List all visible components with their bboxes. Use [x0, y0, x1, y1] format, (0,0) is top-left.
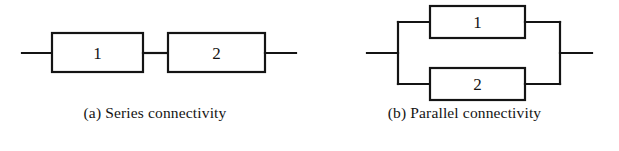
parallel-block-2-label: 2: [473, 75, 482, 94]
panel-series-connectivity: 1 2 (a) Series connectivity: [0, 0, 310, 151]
panel-parallel-connectivity: 1 2 (b) Parallel connectivity: [310, 0, 619, 151]
parallel-diagram-svg: 1 2: [310, 0, 619, 105]
parallel-block-1-label: 1: [473, 13, 482, 32]
series-diagram-svg: 1 2: [0, 0, 310, 105]
parallel-diagram: 1 2: [310, 0, 619, 105]
series-block-1-label: 1: [93, 44, 102, 63]
series-diagram: 1 2: [0, 0, 310, 105]
series-block-2-label: 2: [212, 44, 221, 63]
figure-sheet: 1 2 (a) Series connectivity: [0, 0, 619, 151]
parallel-caption: (b) Parallel connectivity: [310, 104, 619, 122]
series-caption: (a) Series connectivity: [0, 104, 310, 122]
